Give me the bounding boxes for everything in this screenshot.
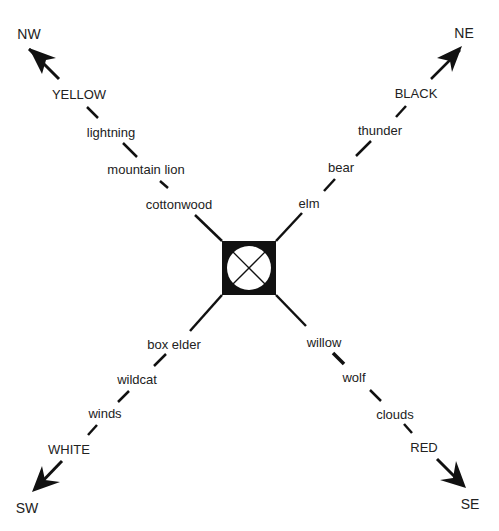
color-label-nw: YELLOW [52, 88, 106, 101]
nw-item-3: cottonwood [146, 198, 213, 211]
color-label-se: RED [410, 441, 437, 454]
nw-item-2: mountain lion [107, 163, 184, 176]
se-item-1: clouds [376, 408, 414, 421]
nw-item-1: lightning [87, 126, 135, 139]
ne-item-2: bear [328, 161, 354, 174]
direction-label-se: SE [461, 497, 480, 511]
color-label-ne: BLACK [395, 87, 438, 100]
ne-item-1: thunder [358, 124, 402, 137]
sw-item-2: wildcat [117, 373, 157, 386]
ne-item-3: elm [299, 197, 320, 210]
sw-item-1: winds [88, 407, 121, 420]
se-item-2: wolf [342, 371, 365, 384]
se-item-3: willow [307, 336, 342, 349]
sw-item-3: box elder [147, 338, 200, 351]
color-label-sw: WHITE [48, 443, 90, 456]
direction-label-sw: SW [16, 501, 39, 515]
direction-label-ne: NE [454, 26, 473, 40]
direction-label-nw: NW [17, 27, 40, 41]
center-symbol [222, 241, 276, 295]
